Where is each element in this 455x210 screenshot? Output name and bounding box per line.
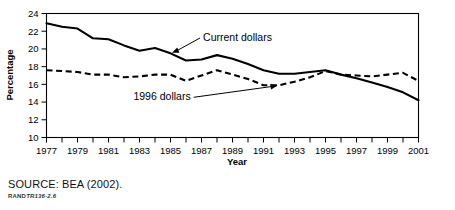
y-axis-ticks: 1012141618202224 bbox=[28, 8, 47, 143]
y-tick-label-22: 22 bbox=[28, 26, 39, 37]
y-tick-label-14: 14 bbox=[28, 96, 39, 107]
x-axis-title: Year bbox=[227, 156, 247, 167]
x-tick-label-1993: 1993 bbox=[284, 145, 305, 156]
x-tick-label-1991: 1991 bbox=[253, 145, 274, 156]
x-tick-label-1979: 1979 bbox=[67, 145, 88, 156]
x-tick-label-1985: 1985 bbox=[160, 145, 181, 156]
y-tick-label-10: 10 bbox=[28, 132, 39, 143]
y-tick-label-12: 12 bbox=[28, 114, 39, 125]
y-tick-label-24: 24 bbox=[28, 8, 39, 19]
series-annotation-1996-dollars: 1996 dollars bbox=[133, 90, 190, 102]
rand-document-id: RANDTR136-2.6 bbox=[8, 193, 122, 199]
x-tick-label-1987: 1987 bbox=[191, 145, 212, 156]
x-tick-label-1999: 1999 bbox=[377, 145, 398, 156]
series-line-1996-dollars bbox=[47, 70, 419, 85]
y-tick-label-16: 16 bbox=[28, 79, 39, 90]
source-block: SOURCE: BEA (2002). RANDTR136-2.6 bbox=[8, 178, 122, 199]
x-tick-label-1977: 1977 bbox=[36, 145, 57, 156]
percentage-line-chart: Percentage Year 1012141618202224 1977197… bbox=[0, 0, 455, 175]
annotation-leader-1 bbox=[177, 38, 200, 51]
y-tick-label-18: 18 bbox=[28, 61, 39, 72]
annotation-arrowhead-1 bbox=[172, 47, 180, 52]
rand-prefix: RAND bbox=[8, 193, 26, 199]
x-tick-label-1997: 1997 bbox=[346, 145, 367, 156]
chart-figure: Percentage Year 1012141618202224 1977197… bbox=[0, 0, 455, 175]
x-axis-ticks: 1977197919811983198519871989199119931995… bbox=[36, 138, 429, 156]
x-tick-label-1981: 1981 bbox=[98, 145, 119, 156]
x-tick-label-1995: 1995 bbox=[315, 145, 336, 156]
source-note: SOURCE: BEA (2002). bbox=[8, 178, 122, 190]
x-tick-label-1983: 1983 bbox=[129, 145, 150, 156]
series-annotation-current-dollars: Current dollars bbox=[203, 31, 272, 43]
x-tick-label-2001: 2001 bbox=[408, 145, 429, 156]
y-tick-label-20: 20 bbox=[28, 43, 39, 54]
rand-number: TR136-2.6 bbox=[26, 193, 56, 199]
annotation-leader-2 bbox=[194, 86, 272, 97]
y-axis-title: Percentage bbox=[4, 49, 15, 100]
x-tick-label-1989: 1989 bbox=[222, 145, 243, 156]
